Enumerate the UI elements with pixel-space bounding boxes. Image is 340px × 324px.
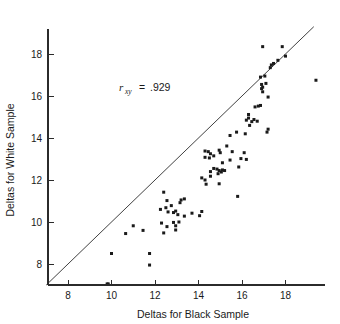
data-point (284, 55, 287, 58)
data-point (261, 90, 264, 93)
data-point (200, 210, 203, 213)
correlation-equals: = (139, 81, 145, 93)
data-points-group (106, 45, 318, 285)
data-point (267, 128, 270, 131)
data-point (276, 59, 279, 62)
data-point (236, 195, 239, 198)
data-point (223, 169, 226, 172)
data-point (267, 96, 270, 99)
data-point (229, 159, 232, 162)
x-tick-label-18: 18 (280, 290, 292, 301)
y-tick-label-8: 8 (36, 259, 42, 270)
data-point (259, 76, 262, 79)
data-point (167, 210, 170, 213)
data-point (148, 264, 151, 267)
data-point (252, 118, 255, 121)
data-point (208, 156, 211, 159)
data-point (190, 212, 193, 215)
y-tick-label-12: 12 (31, 175, 43, 186)
data-point (264, 82, 267, 85)
data-point (244, 132, 247, 135)
data-point (179, 201, 182, 204)
data-point (261, 45, 264, 48)
data-point (243, 151, 246, 154)
data-point (162, 231, 165, 234)
identity-line-group (46, 27, 314, 285)
axes-group (48, 29, 325, 285)
data-point (256, 120, 259, 123)
data-point (261, 86, 264, 89)
data-point (225, 144, 228, 147)
data-point (259, 104, 262, 107)
data-point (198, 214, 201, 217)
correlation-subscript: xy (124, 87, 132, 96)
data-point (235, 131, 238, 134)
data-point (148, 252, 151, 255)
correlation-symbol: r (119, 81, 124, 93)
data-point (281, 45, 284, 48)
x-tick-label-12: 12 (149, 290, 161, 301)
data-point (172, 221, 175, 224)
data-point (165, 199, 168, 202)
data-point (215, 168, 218, 171)
data-point (172, 211, 175, 214)
data-point (266, 131, 269, 134)
data-point (124, 232, 127, 235)
data-point (212, 167, 215, 170)
data-point (209, 170, 212, 173)
data-point (200, 176, 203, 179)
data-point (174, 228, 177, 231)
scatter-plot-figure: 8101214161881012141618 Deltas for Black … (0, 0, 340, 324)
data-point (160, 222, 163, 225)
data-point (204, 179, 207, 182)
data-point (314, 79, 317, 82)
plot-canvas: 8101214161881012141618 Deltas for Black … (0, 0, 340, 324)
data-point (229, 134, 232, 137)
data-point (218, 149, 221, 152)
data-point (162, 191, 165, 194)
data-point (247, 113, 250, 116)
data-point (183, 215, 186, 218)
y-tick-label-16: 16 (31, 91, 43, 102)
data-point (231, 150, 234, 153)
data-point (176, 213, 179, 216)
data-point (204, 156, 207, 159)
data-point (164, 206, 167, 209)
y-tick-label-18: 18 (31, 49, 43, 60)
data-point (221, 161, 224, 164)
data-point (247, 117, 250, 120)
y-tick-label-14: 14 (31, 133, 43, 144)
data-point (218, 182, 221, 185)
data-point (132, 224, 135, 227)
data-point (204, 150, 207, 153)
x-tick-label-8: 8 (65, 290, 71, 301)
data-point (239, 157, 242, 160)
data-point (180, 198, 183, 201)
data-point (142, 229, 145, 232)
x-axis-title: Deltas for Black Sample (137, 308, 249, 320)
data-point (260, 83, 263, 86)
data-point (263, 75, 266, 78)
data-point (165, 225, 168, 228)
data-point (177, 221, 180, 224)
data-point (207, 150, 210, 153)
data-point (209, 175, 212, 178)
data-point (254, 105, 257, 108)
y-axis-title: Deltas for White Sample (4, 103, 16, 216)
data-point (217, 172, 220, 175)
y-tick-label-10: 10 (31, 217, 43, 228)
data-point (269, 66, 272, 69)
data-point (237, 165, 240, 168)
data-point (272, 62, 275, 65)
x-tick-label-14: 14 (193, 290, 205, 301)
data-point (174, 224, 177, 227)
data-point (183, 197, 186, 200)
data-point (212, 154, 215, 157)
data-point (170, 204, 173, 207)
identity-line (46, 27, 314, 285)
data-point (159, 208, 162, 211)
data-point (245, 158, 248, 161)
x-tick-label-16: 16 (236, 290, 248, 301)
correlation-annotation: r xy = .929 (119, 81, 171, 96)
data-point (248, 124, 251, 127)
